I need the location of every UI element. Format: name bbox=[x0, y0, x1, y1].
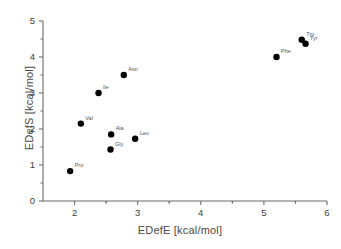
scatter-chart: EDefS [kcal/mol] EDefE [kcal/mol] 012345… bbox=[0, 0, 341, 249]
data-marker bbox=[121, 72, 127, 78]
data-marker bbox=[302, 40, 308, 46]
axes-group bbox=[39, 21, 327, 205]
data-markers bbox=[67, 37, 309, 175]
data-marker bbox=[107, 146, 113, 152]
data-marker bbox=[273, 54, 279, 60]
data-marker bbox=[67, 168, 73, 174]
plot-area bbox=[0, 0, 341, 249]
data-marker bbox=[95, 90, 101, 96]
data-marker bbox=[78, 120, 84, 126]
data-marker bbox=[132, 136, 138, 142]
data-marker bbox=[108, 131, 114, 137]
